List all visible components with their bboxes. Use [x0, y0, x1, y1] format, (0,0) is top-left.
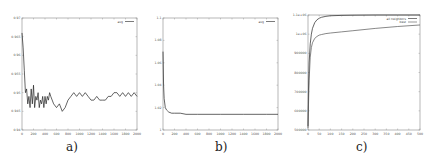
- chart-panel-c: 0501001502002503003504004505005000006000…: [290, 0, 434, 158]
- y-tick-label: 0.955: [11, 72, 20, 76]
- plot-frame: [22, 18, 137, 130]
- legend-label: avg: [258, 20, 264, 24]
- series-line: [308, 25, 420, 128]
- y-tick-label: 1.02: [154, 106, 161, 110]
- y-tick-label: 1.04: [154, 83, 161, 87]
- y-tick-label: 1.08: [154, 38, 161, 42]
- x-tick-label: 1600: [251, 132, 259, 136]
- y-tick-label: 1: [159, 128, 161, 132]
- y-tick-label: 0.94: [13, 128, 20, 132]
- caption-a: a): [66, 140, 78, 154]
- x-tick-label: 50: [317, 132, 321, 136]
- x-tick-label: 1400: [239, 132, 247, 136]
- legend-label: avg: [117, 20, 123, 24]
- x-tick-label: 1200: [87, 132, 95, 136]
- y-tick-label: 0.965: [11, 35, 20, 39]
- x-tick-label: 2000: [274, 132, 282, 136]
- x-tick-label: 450: [406, 132, 412, 136]
- caption-b: b): [215, 140, 227, 154]
- x-tick-label: 0: [162, 132, 164, 136]
- line-chart-c: 0501001502002503003504004505005000006000…: [290, 0, 434, 158]
- series-line: [163, 52, 278, 115]
- x-tick-label: 2000: [133, 132, 141, 136]
- line-chart-b: 020040060080010001200140016001800200011.…: [145, 0, 290, 158]
- x-tick-label: 400: [42, 132, 48, 136]
- x-tick-label: 0: [307, 132, 309, 136]
- y-tick-label: 700000: [294, 90, 306, 94]
- x-tick-label: 1600: [110, 132, 118, 136]
- y-tick-label: 1.06: [154, 61, 161, 65]
- x-tick-label: 200: [350, 132, 356, 136]
- caption-c: c): [356, 140, 367, 154]
- x-tick-label: 1000: [216, 132, 224, 136]
- x-tick-label: 1400: [98, 132, 106, 136]
- y-tick-label: 900000: [294, 51, 306, 55]
- y-tick-label: 0.96: [13, 53, 20, 57]
- x-tick-label: 1200: [228, 132, 236, 136]
- x-tick-label: 1000: [75, 132, 83, 136]
- series-line: [22, 33, 137, 111]
- x-tick-label: 200: [171, 132, 177, 136]
- x-tick-label: 100: [327, 132, 333, 136]
- chart-panel-a: 02004006008001000120014001600180020000.9…: [0, 0, 145, 158]
- x-tick-label: 400: [395, 132, 401, 136]
- x-tick-label: 600: [53, 132, 59, 136]
- y-tick-label: 500000: [294, 128, 306, 132]
- x-tick-label: 1800: [262, 132, 270, 136]
- y-tick-label: 1.1e+06: [293, 13, 307, 17]
- y-tick-label: 1.1: [156, 16, 161, 20]
- x-tick-label: 200: [30, 132, 36, 136]
- y-tick-label: 600000: [294, 109, 306, 113]
- x-tick-label: 150: [339, 132, 345, 136]
- x-tick-label: 350: [383, 132, 389, 136]
- line-chart-a: 02004006008001000120014001600180020000.9…: [0, 0, 145, 158]
- y-tick-label: 0.945: [11, 109, 20, 113]
- y-tick-label: 800000: [294, 71, 306, 75]
- y-tick-label: 0.95: [13, 91, 20, 95]
- chart-panel-b: 020040060080010001200140016001800200011.…: [145, 0, 290, 158]
- series-line: [308, 15, 420, 126]
- y-tick-label: 0.97: [13, 16, 20, 20]
- x-tick-label: 600: [194, 132, 200, 136]
- legend-label: best: [400, 20, 407, 24]
- x-tick-label: 300: [372, 132, 378, 136]
- x-tick-label: 1800: [121, 132, 129, 136]
- y-tick-label: 1e+06: [296, 32, 307, 36]
- x-tick-label: 0: [21, 132, 23, 136]
- x-tick-label: 400: [183, 132, 189, 136]
- x-tick-label: 800: [206, 132, 212, 136]
- x-tick-label: 800: [65, 132, 71, 136]
- plot-frame: [308, 15, 420, 130]
- x-tick-label: 500: [417, 132, 423, 136]
- x-tick-label: 250: [361, 132, 367, 136]
